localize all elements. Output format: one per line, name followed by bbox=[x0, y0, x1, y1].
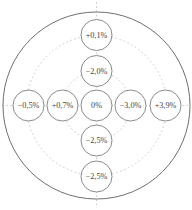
node-label-bottom-inner: −2,5% bbox=[86, 136, 108, 145]
node-right-outer: +3,9% bbox=[150, 90, 181, 121]
node-bottom-outer: −2,5% bbox=[81, 161, 112, 192]
node-label-right-inner: −3,0% bbox=[120, 101, 142, 110]
node-label-top-outer: +0,1% bbox=[86, 31, 108, 40]
node-label-right-outer: +3,9% bbox=[155, 101, 177, 110]
node-bottom-inner: −2,5% bbox=[81, 125, 112, 156]
node-label-bottom-outer: −2,5% bbox=[86, 172, 108, 181]
node-label-top-inner: −2,0% bbox=[86, 67, 108, 76]
distortion-diagram: +0,1% −2,0% −0,5% +0,7% 0% −3,0% +3,9% −… bbox=[0, 0, 192, 210]
node-top-inner: −2,0% bbox=[81, 56, 112, 87]
node-left-outer: −0,5% bbox=[13, 90, 44, 121]
node-center: 0% bbox=[81, 90, 112, 121]
node-label-left-outer: −0,5% bbox=[18, 101, 40, 110]
node-label-left-inner: +0,7% bbox=[52, 101, 74, 110]
node-right-inner: −3,0% bbox=[115, 90, 146, 121]
node-label-center: 0% bbox=[91, 101, 102, 110]
node-top-outer: +0,1% bbox=[81, 20, 112, 51]
node-left-inner: +0,7% bbox=[47, 90, 78, 121]
